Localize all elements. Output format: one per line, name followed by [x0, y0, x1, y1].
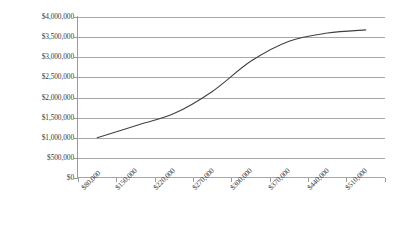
gridline	[78, 158, 385, 159]
y-tick-mark	[74, 37, 78, 38]
gridline	[78, 37, 385, 38]
y-tick-mark	[74, 77, 78, 78]
y-axis-label: $2,500,000	[8, 73, 74, 81]
gridline	[78, 98, 385, 99]
y-tick-mark	[74, 118, 78, 119]
gridline	[78, 118, 385, 119]
gridline	[78, 138, 385, 139]
y-axis-label: $1,500,000	[8, 114, 74, 122]
y-axis-label: $3,000,000	[8, 53, 74, 61]
y-axis-label: $4,000,000	[8, 13, 74, 21]
x-tick-mark	[78, 178, 79, 182]
plot-area	[78, 17, 385, 178]
y-axis-label: $500,000	[8, 154, 74, 162]
y-tick-mark	[74, 17, 78, 18]
y-axis-label: $1,000,000	[8, 134, 74, 142]
y-axis-label: $0	[8, 174, 74, 182]
y-tick-mark	[74, 98, 78, 99]
y-axis-label: $2,000,000	[8, 94, 74, 102]
y-axis-label: $3,500,000	[8, 33, 74, 41]
y-tick-mark	[74, 57, 78, 58]
chart-container: $4,000,000 $3,500,000 $3,000,000 $2,500,…	[0, 0, 403, 233]
x-tick-mark	[385, 178, 386, 182]
gridline	[78, 77, 385, 78]
y-tick-mark	[74, 138, 78, 139]
gridline	[78, 17, 385, 18]
gridline	[78, 57, 385, 58]
y-tick-mark	[74, 158, 78, 159]
